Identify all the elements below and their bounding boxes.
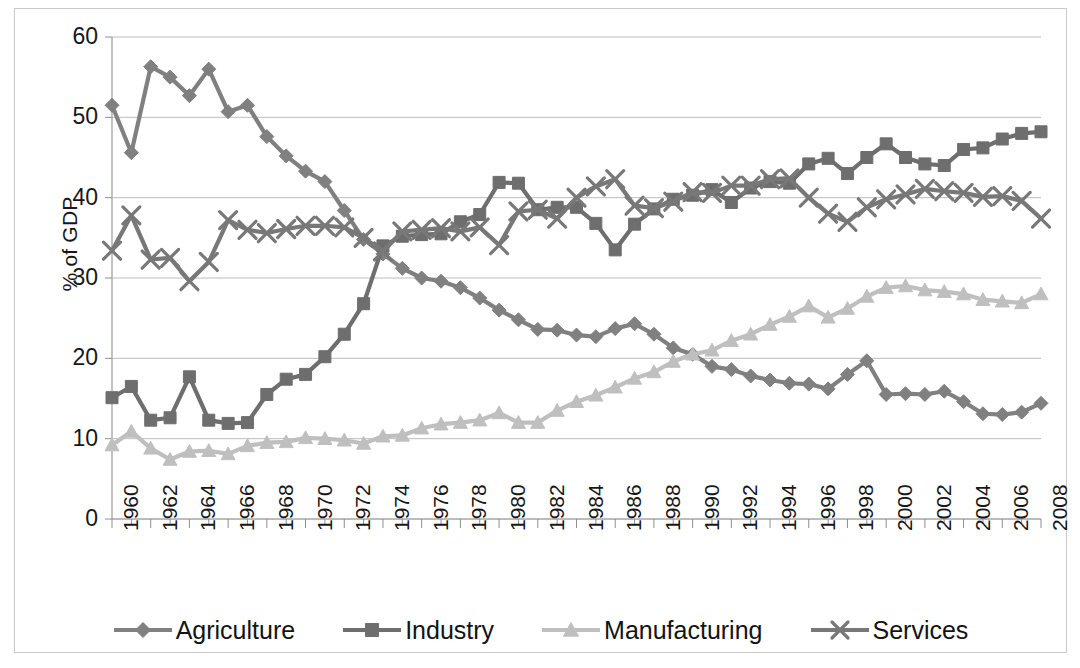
x-axis-tick-label: 1970 (314, 484, 335, 531)
chart-figure: % of GDP 0102030405060 19601962196419661… (0, 0, 1080, 668)
series-marker (164, 412, 176, 424)
series-marker (1034, 396, 1048, 410)
series-marker (261, 388, 273, 400)
x-axis-tick-label: 1974 (391, 484, 412, 531)
x-axis-tick-label: 1972 (352, 484, 373, 531)
series-marker (1015, 405, 1029, 419)
series-marker (996, 133, 1008, 145)
series-marker (861, 152, 873, 164)
series-marker (958, 143, 970, 155)
series-marker (858, 199, 875, 216)
y-axis-tick-label: 30 (52, 266, 98, 289)
series-marker (744, 369, 758, 383)
series-marker (415, 271, 429, 285)
series-marker (222, 417, 234, 429)
series-marker (995, 408, 1009, 422)
x-axis-tick-label: 1992 (739, 484, 760, 531)
legend-label: Agriculture (176, 618, 296, 643)
series-marker (241, 417, 253, 429)
series-marker (589, 330, 603, 344)
legend-item-agriculture[interactable]: Agriculture (112, 617, 296, 643)
y-axis-tick-label: 50 (52, 105, 98, 128)
series-marker (319, 351, 331, 363)
series-marker (493, 176, 505, 188)
legend-marker (366, 624, 379, 637)
series-marker (105, 98, 119, 112)
series-marker (608, 322, 622, 336)
series-marker (803, 158, 815, 170)
series-marker (1035, 126, 1047, 138)
series-marker (802, 377, 816, 391)
x-axis-tick-label: 1998 (855, 484, 876, 531)
y-axis-tick-label: 40 (52, 186, 98, 209)
series-marker (280, 373, 292, 385)
series-marker (300, 368, 312, 380)
series-marker (183, 371, 195, 383)
series-marker (609, 244, 621, 256)
chart-plot-region (0, 0, 1080, 668)
x-axis-tick-label: 1960 (120, 484, 141, 531)
series-marker (1033, 210, 1050, 227)
series-marker (123, 207, 140, 224)
series-line (112, 67, 1041, 415)
x-axis-tick-label: 2002 (933, 484, 954, 531)
series-marker (570, 328, 584, 342)
x-axis-tick-label: 2000 (894, 484, 915, 531)
series-line (112, 286, 1041, 460)
series-marker (145, 414, 157, 426)
series-marker (492, 406, 506, 419)
x-axis-tick-label: 2004 (972, 484, 993, 531)
x-axis-tick-label: 1976 (430, 484, 451, 531)
series-marker (358, 298, 370, 310)
x-axis-tick-label: 2008 (1049, 484, 1070, 531)
series-marker (474, 209, 486, 221)
series-marker (125, 380, 137, 392)
legend-item-services[interactable]: Services (809, 617, 969, 643)
series-marker (220, 212, 237, 229)
chart-legend: AgricultureIndustryManufacturingServices (0, 617, 1080, 643)
series-marker (782, 376, 796, 390)
series-marker (900, 152, 912, 164)
x-axis-tick-label: 1990 (701, 484, 722, 531)
series-marker (839, 213, 856, 230)
x-axis-tick-label: 2006 (1010, 484, 1031, 531)
series-marker (763, 373, 777, 387)
series-marker (203, 414, 215, 426)
series-marker (841, 168, 853, 180)
x-axis-tick-label: 1962 (159, 484, 180, 531)
x-axis-tick-label: 1968 (275, 484, 296, 531)
series-marker (919, 158, 931, 170)
legend-item-manufacturing[interactable]: Manufacturing (540, 617, 762, 643)
series-marker (725, 196, 737, 208)
series-services (104, 170, 1050, 290)
y-axis-tick-label: 20 (52, 346, 98, 369)
y-axis-tick-label: 0 (52, 507, 98, 530)
series-marker (629, 218, 641, 230)
x-axis-tick-label: 1982 (546, 484, 567, 531)
legend-label: Services (873, 618, 969, 643)
x-axis-tick-label: 1964 (197, 484, 218, 531)
y-axis-tick-label: 60 (52, 25, 98, 48)
legend-label: Manufacturing (604, 618, 762, 643)
cross-marker-icon (809, 617, 871, 643)
series-marker (200, 253, 217, 270)
x-axis-tick-label: 1984 (585, 484, 606, 531)
legend-label: Industry (405, 618, 494, 643)
x-axis-tick-label: 1980 (507, 484, 528, 531)
series-manufacturing (105, 279, 1048, 465)
series-marker (124, 146, 138, 160)
legend-item-industry[interactable]: Industry (341, 617, 494, 643)
series-marker (338, 328, 350, 340)
series-marker (590, 217, 602, 229)
series-marker (124, 424, 138, 437)
series-marker (511, 313, 525, 327)
legend-marker (135, 623, 150, 638)
x-axis-tick-label: 1988 (662, 484, 683, 531)
x-axis-tick-label: 1994 (778, 484, 799, 531)
series-marker (531, 322, 545, 336)
series-line (112, 178, 1041, 281)
series-marker (822, 152, 834, 164)
triangle-marker-icon (540, 617, 602, 643)
series-marker (724, 363, 738, 377)
series-marker (1034, 287, 1048, 300)
